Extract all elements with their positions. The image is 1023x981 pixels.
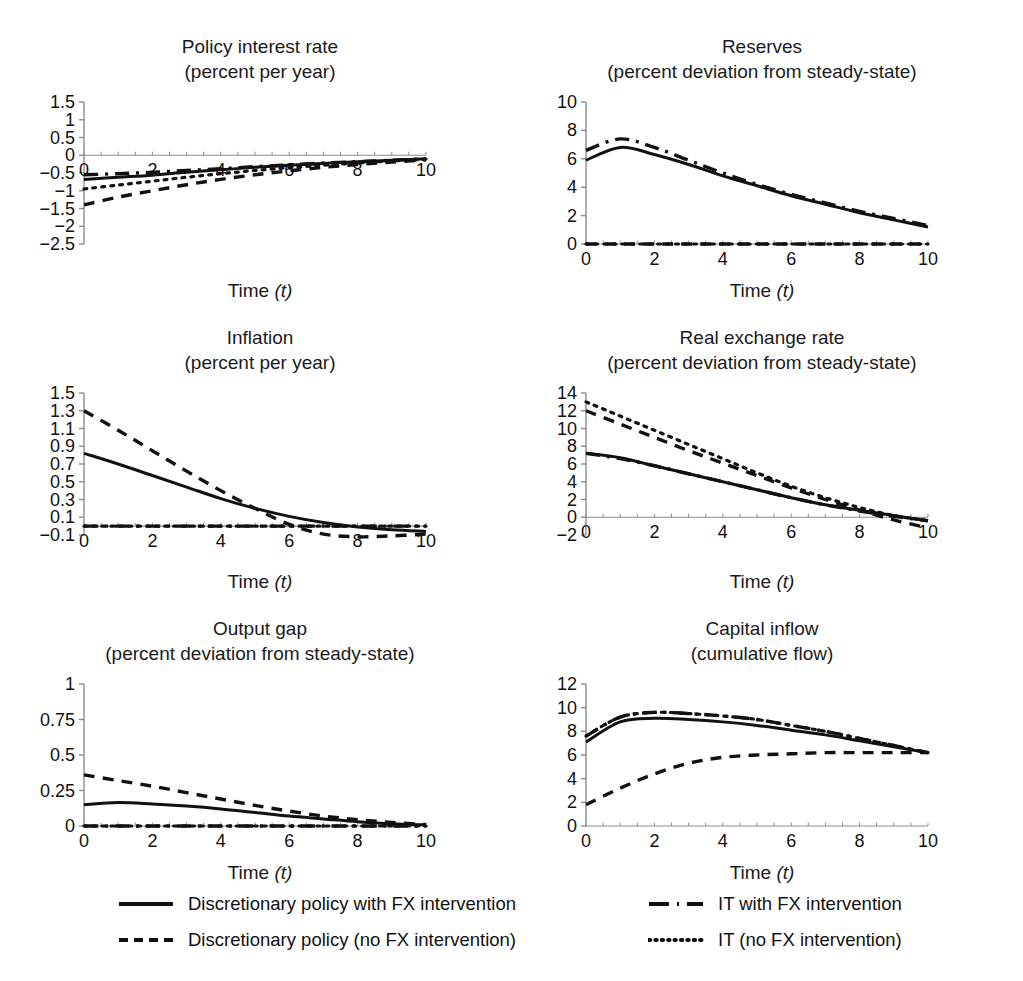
x-axis-label-text: Time xyxy=(228,571,270,592)
svg-text:4: 4 xyxy=(567,177,577,197)
svg-text:0: 0 xyxy=(581,522,591,542)
plot-area: 1.510.50−0.5−1−1.5−2−2.50246810 xyxy=(10,92,510,274)
svg-text:8: 8 xyxy=(855,522,865,542)
panel-title-sub: (cumulative flow) xyxy=(512,641,1012,666)
legend-item-discretionary-nofx[interactable]: Discretionary policy (no FX intervention… xyxy=(118,929,648,951)
x-axis-label-text: Time xyxy=(730,571,772,592)
svg-text:6: 6 xyxy=(567,745,577,765)
x-axis-label-var: (t) xyxy=(274,862,292,883)
svg-text:0: 0 xyxy=(567,816,577,836)
panel-title-sub: (percent deviation from steady-state) xyxy=(10,641,510,666)
legend-swatch-dashdot-icon xyxy=(648,897,704,911)
legend-item-discretionary-fx[interactable]: Discretionary policy with FX interventio… xyxy=(118,893,648,915)
legend-item-it-fx[interactable]: IT with FX intervention xyxy=(648,893,1023,915)
panel-title-main: Real exchange rate xyxy=(680,327,845,348)
x-axis-label: Time (t) xyxy=(10,280,510,302)
panel-title-main: Output gap xyxy=(213,618,307,639)
svg-text:10: 10 xyxy=(918,831,938,851)
svg-text:−0.1: −0.1 xyxy=(39,525,75,545)
legend-label: IT with FX intervention xyxy=(718,893,902,915)
svg-text:4: 4 xyxy=(567,769,577,789)
legend-grid: Discretionary policy with FX interventio… xyxy=(0,893,1023,951)
x-axis-label-text: Time xyxy=(730,862,772,883)
x-axis-label: Time (t) xyxy=(512,862,1012,884)
x-axis-label-var: (t) xyxy=(776,571,794,592)
svg-text:10: 10 xyxy=(918,249,938,269)
plot-area: 10864200246810 xyxy=(512,92,1012,274)
svg-text:6: 6 xyxy=(786,522,796,542)
svg-text:0: 0 xyxy=(567,234,577,254)
panel-title-sub: (percent per year) xyxy=(10,59,510,84)
svg-text:0: 0 xyxy=(581,249,591,269)
svg-text:0: 0 xyxy=(79,160,89,180)
svg-text:0.25: 0.25 xyxy=(40,781,75,801)
svg-text:0: 0 xyxy=(581,831,591,851)
panel-real-exchange-rate: Real exchange rate (percent deviation fr… xyxy=(512,325,1012,615)
legend-item-it-nofx[interactable]: IT (no FX intervention) xyxy=(648,929,1023,951)
svg-text:10: 10 xyxy=(416,831,436,851)
svg-text:12: 12 xyxy=(557,674,577,694)
svg-text:6: 6 xyxy=(284,831,294,851)
svg-text:10: 10 xyxy=(416,160,436,180)
svg-text:2: 2 xyxy=(147,831,157,851)
svg-text:8: 8 xyxy=(353,531,363,551)
svg-text:8: 8 xyxy=(567,721,577,741)
panel-title-main: Capital inflow xyxy=(706,618,819,639)
panel-inflation: Inflation (percent per year) 1.51.31.10.… xyxy=(10,325,510,615)
legend-label: Discretionary policy with FX interventio… xyxy=(188,893,516,915)
svg-text:1: 1 xyxy=(65,674,75,694)
panel-title-sub: (percent per year) xyxy=(10,350,510,375)
x-axis-label: Time (t) xyxy=(10,862,510,884)
legend: Discretionary policy with FX interventio… xyxy=(0,893,1023,951)
svg-text:10: 10 xyxy=(918,522,938,542)
svg-text:8: 8 xyxy=(567,120,577,140)
legend-label: Discretionary policy (no FX intervention… xyxy=(188,929,516,951)
plot-area: 14121086420−20246810 xyxy=(512,383,1012,565)
panel-title-main: Reserves xyxy=(722,36,802,57)
x-axis-label-var: (t) xyxy=(776,862,794,883)
legend-swatch-solid-icon xyxy=(118,897,174,911)
svg-text:6: 6 xyxy=(284,531,294,551)
svg-text:6: 6 xyxy=(786,249,796,269)
panel-title: Real exchange rate (percent deviation fr… xyxy=(512,325,1012,375)
svg-text:2: 2 xyxy=(649,831,659,851)
panel-capital-inflow: Capital inflow (cumulative flow) 1210864… xyxy=(512,616,1012,896)
panel-title-sub: (percent deviation from steady-state) xyxy=(512,350,1012,375)
svg-text:0.75: 0.75 xyxy=(40,710,75,730)
panel-title: Reserves (percent deviation from steady-… xyxy=(512,34,1012,84)
svg-text:4: 4 xyxy=(216,531,226,551)
panel-title-main: Inflation xyxy=(227,327,294,348)
x-axis-label-text: Time xyxy=(228,280,270,301)
svg-text:2: 2 xyxy=(649,249,659,269)
plot-area: 10.750.50.2500246810 xyxy=(10,674,510,856)
impulse-response-figure: Policy interest rate (percent per year) … xyxy=(0,0,1023,981)
svg-text:8: 8 xyxy=(855,831,865,851)
panel-output-gap: Output gap (percent deviation from stead… xyxy=(10,616,510,896)
svg-text:6: 6 xyxy=(786,831,796,851)
svg-text:−2.5: −2.5 xyxy=(39,234,75,254)
svg-text:0.5: 0.5 xyxy=(50,745,75,765)
svg-text:4: 4 xyxy=(216,831,226,851)
legend-swatch-dotted-icon xyxy=(648,933,704,947)
legend-label: IT (no FX intervention) xyxy=(718,929,902,951)
panel-title-main: Policy interest rate xyxy=(182,36,338,57)
panel-title-sub: (percent deviation from steady-state) xyxy=(512,59,1012,84)
plot-area: 1210864200246810 xyxy=(512,674,1012,856)
svg-text:2: 2 xyxy=(147,160,157,180)
panel-title: Policy interest rate (percent per year) xyxy=(10,34,510,84)
x-axis-label-text: Time xyxy=(730,280,772,301)
legend-swatch-dashed-icon xyxy=(118,933,174,947)
x-axis-label-var: (t) xyxy=(776,280,794,301)
svg-text:4: 4 xyxy=(718,831,728,851)
svg-text:0: 0 xyxy=(65,816,75,836)
svg-text:8: 8 xyxy=(353,831,363,851)
svg-text:10: 10 xyxy=(557,698,577,718)
svg-text:2: 2 xyxy=(567,792,577,812)
panel-title: Output gap (percent deviation from stead… xyxy=(10,616,510,666)
svg-text:10: 10 xyxy=(557,92,577,112)
svg-text:−2: −2 xyxy=(556,525,577,545)
svg-text:6: 6 xyxy=(567,149,577,169)
x-axis-label: Time (t) xyxy=(512,571,1012,593)
panel-title: Capital inflow (cumulative flow) xyxy=(512,616,1012,666)
panel-reserves: Reserves (percent deviation from steady-… xyxy=(512,34,1012,324)
